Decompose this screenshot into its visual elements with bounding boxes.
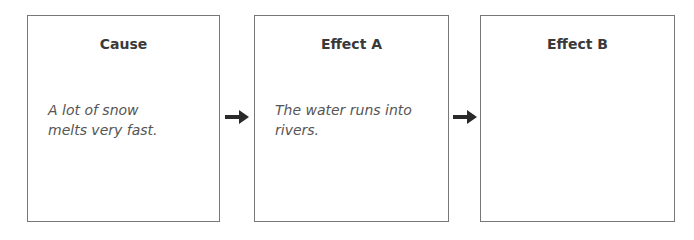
effect-a-title: Effect A [255,36,448,52]
cause-box: Cause A lot of snow melts very fast. [27,15,220,222]
effect-a-box: Effect A The water runs into rivers. [254,15,449,222]
cause-text: A lot of snow melts very fast. [48,100,179,140]
effect-a-text: The water runs into rivers. [275,100,444,140]
cause-title: Cause [28,36,219,52]
right-arrow-icon [452,108,478,126]
effect-b-title: Effect B [481,36,674,52]
right-arrow-icon [224,108,250,126]
effect-b-box: Effect B [480,15,675,222]
